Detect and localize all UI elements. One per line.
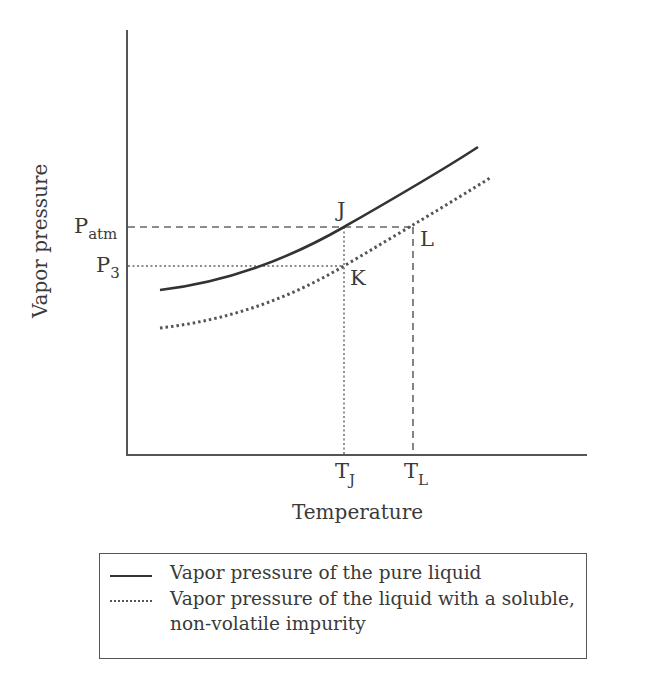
legend: Vapor pressure of the pure liquid Vapor … [99,553,587,659]
pure-liquid-curve [160,147,478,290]
y-tick-patm: Patm [74,214,117,243]
x-axis-label: Temperature [292,500,423,524]
x-tick-tj: TJ [335,459,355,489]
legend-label-impure-line2: non-volatile impurity [170,612,366,636]
legend-label-impure-line1: Vapor pressure of the liquid with a solu… [170,587,575,611]
point-j-label: J [335,198,345,222]
point-k-label: K [350,266,366,290]
legend-label-pure: Vapor pressure of the pure liquid [170,561,481,585]
y-axis-label: Vapor pressure [28,164,52,319]
solid-line-sample-icon [110,575,152,577]
dotted-line-sample-icon [110,600,152,602]
x-tick-tl: TL [404,459,428,489]
y-tick-p3: P3 [96,253,120,282]
impure-liquid-curve [160,178,490,328]
point-l-label: L [420,227,434,251]
